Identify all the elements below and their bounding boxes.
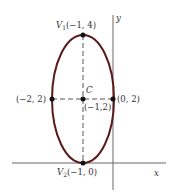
center-point xyxy=(81,97,86,102)
vertex-v1-point xyxy=(81,33,86,38)
vertex-v1-coords: (−1, 4) xyxy=(66,20,96,30)
right-covertex-point xyxy=(111,97,116,102)
left-covertex-label: (−2, 2) xyxy=(16,95,46,104)
vertex-v1-label: V1(−1, 4) xyxy=(56,21,96,31)
x-axis-label: x xyxy=(154,169,159,178)
vertex-v2-coords: (−1, 0) xyxy=(67,167,97,177)
center-name-label: C xyxy=(86,86,93,95)
y-axis-label: y xyxy=(116,14,121,23)
left-covertex-point xyxy=(50,97,55,102)
center-coords-label: (−1,2) xyxy=(84,103,111,112)
ellipse-diagram: y x V1(−1, 4) V2(−1, 0) C (−1,2) (−2, 2)… xyxy=(0,0,176,192)
right-covertex-label: (0, 2) xyxy=(117,95,140,104)
vertex-v2-label: V2(−1, 0) xyxy=(57,168,97,178)
vertex-v2-point xyxy=(81,161,86,166)
